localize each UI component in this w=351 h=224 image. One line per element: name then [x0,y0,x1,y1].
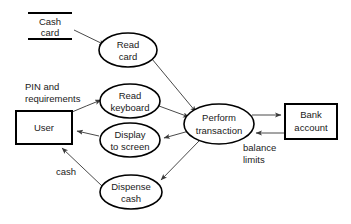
entity-bank-account-label-line1: Bank [300,109,322,120]
process-dispense-cash[interactable]: Dispense cash [100,175,162,209]
process-perform-transaction-label-line1: Perform [202,112,236,123]
flow-label-cash-text: cash [56,166,76,177]
flow-label-pin-and-requirements: PIN and requirements [25,81,81,104]
store-cash-card[interactable]: Cash card [28,13,72,39]
process-display-to-screen[interactable]: Display to screen [100,123,160,157]
flow-perform-transaction-to-dispense-cash [161,141,199,180]
flow-label-balance-limits: balance limits [243,142,276,165]
flow-label-pin-line2: requirements [25,93,81,104]
flow-perform-transaction-to-display [164,131,189,138]
flow-cash-card-to-read-card [74,30,105,45]
store-cash-card-label-line1: Cash [39,16,61,27]
dfd-diagram: Cash card User Bank account Read card Re… [0,0,351,224]
entity-user-label: User [34,122,54,133]
process-read-card-label-line1: Read [117,39,140,50]
process-read-card[interactable]: Read card [99,33,157,67]
entity-bank-account[interactable]: Bank account [285,104,337,139]
flow-display-to-user [77,131,99,136]
dfd-canvas: Cash card User Bank account Read card Re… [0,0,351,224]
flow-label-balance-line2: limits [243,154,265,165]
process-display-to-screen-label-line1: Display [114,129,145,140]
entity-user[interactable]: User [16,111,72,144]
process-perform-transaction-label-line2: transaction [196,125,242,136]
flow-label-cash: cash [56,166,76,177]
process-read-keyboard[interactable]: Read keyboard [100,84,160,118]
process-display-to-screen-label-line2: to screen [110,141,149,152]
store-cash-card-label-line2: card [41,27,59,38]
process-read-card-label-line2: card [119,51,137,62]
flow-read-keyboard-to-perform-transaction [159,106,189,117]
flow-label-balance-line1: balance [243,142,276,153]
flow-label-pin-line1: PIN and [25,81,59,92]
process-read-keyboard-label-line1: Read [119,90,142,101]
process-dispense-cash-label-line2: cash [121,193,141,204]
process-perform-transaction[interactable]: Perform transaction [184,104,254,144]
entity-bank-account-label-line2: account [294,122,328,133]
process-dispense-cash-label-line1: Dispense [111,181,151,192]
process-read-keyboard-label-line2: keyboard [110,102,149,113]
